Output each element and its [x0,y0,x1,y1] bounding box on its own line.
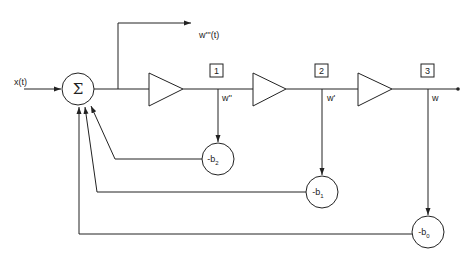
summing-junction: Σ [62,73,94,105]
node-w-label: w [431,93,439,103]
stage-2-label: 2 [319,66,324,76]
feedback-b1-arrow [85,107,306,192]
coef-b1-prefix: -b [312,187,320,197]
stage-3-label: 3 [425,66,430,76]
amplifier-3-triangle [358,73,392,106]
coefficient-b1-node: -b1 [306,176,338,208]
sigma-icon: Σ [73,80,84,98]
coefficient-b0-node: -b0 [412,216,444,248]
coef-b2-prefix: -b [207,154,215,164]
amplifier-2-triangle [253,73,286,106]
coef-b1-circle [306,176,338,208]
node-w2-label: w'' [221,93,232,103]
amplifier-1-triangle [149,73,183,106]
block-diagram: x(t) Σ w'''(t) 1 w'' 2 w' 3 w -b2 -b1 [0,0,472,258]
feedback-b2-arrow [91,106,202,159]
input-label: x(t) [14,77,27,87]
node-w1-label: w' [326,93,335,103]
output-terminal-dot [456,87,460,91]
stage-1-label: 1 [214,66,219,76]
feedback-b0-arrow [79,107,412,234]
coefficient-b2-node: -b2 [202,143,234,175]
output-tap-label: w'''(t) [198,30,219,40]
coef-b0-prefix: -b [418,227,426,237]
coef-b0-circle [412,216,444,248]
